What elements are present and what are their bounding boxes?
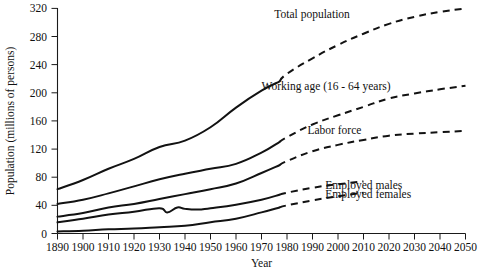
x-tick-label-1950: 1950	[199, 241, 222, 253]
x-tick-label-1890: 1890	[46, 241, 69, 253]
x-tick-label-1940: 1940	[174, 241, 197, 253]
series-line-historical	[58, 142, 280, 204]
x-ticks-group: 1890 1900 1910 1920 1930 1940 1950 1960 …	[46, 234, 477, 254]
y-tick-label-0: 0	[41, 228, 47, 240]
annotation-layer: Total populationWorking age (16 - 64 yea…	[262, 8, 412, 201]
x-tick-label-1930: 1930	[148, 241, 171, 253]
x-tick-label-2050: 2050	[454, 241, 477, 253]
y-tick-label-280: 280	[30, 31, 48, 43]
y-tick-label-320: 320	[30, 2, 48, 14]
x-tick-label-2000: 2000	[327, 241, 350, 253]
y-tick-label-40: 40	[36, 199, 48, 211]
y-tick-label-80: 80	[36, 171, 48, 183]
y-tick-label-240: 240	[30, 59, 48, 71]
chart-canvas: 0 40 80 120 160 200 240 280 320	[0, 0, 502, 270]
series-annotation-label: Working age (16 - 64 years)	[262, 80, 391, 93]
y-tick-label-200: 200	[30, 87, 48, 99]
x-tick-label-1920: 1920	[123, 241, 146, 253]
x-axis-title: Year	[251, 257, 272, 269]
x-tick-label-2020: 2020	[378, 241, 401, 253]
series-annotation-label: Total population	[274, 8, 350, 21]
series-annotation-label: Employed females	[325, 188, 411, 201]
x-tick-label-1990: 1990	[301, 241, 324, 253]
population-projection-chart: 0 40 80 120 160 200 240 280 320	[0, 0, 502, 270]
x-tick-label-2010: 2010	[352, 241, 375, 253]
y-ticks-group: 0 40 80 120 160 200 240 280 320	[30, 2, 58, 239]
x-tick-label-1910: 1910	[97, 241, 120, 253]
series-annotation-label: Labor force	[307, 124, 361, 136]
series-line-historical	[58, 165, 280, 216]
y-axis-title: Population (millions of persons)	[4, 47, 17, 196]
y-tick-label-160: 160	[30, 115, 48, 127]
series-line-historical	[58, 82, 280, 190]
x-tick-label-2040: 2040	[429, 241, 452, 253]
x-tick-label-1970: 1970	[250, 241, 273, 253]
x-tick-label-1960: 1960	[225, 241, 248, 253]
x-tick-label-1980: 1980	[276, 241, 299, 253]
x-tick-label-1900: 1900	[72, 241, 95, 253]
y-tick-label-120: 120	[30, 143, 48, 155]
x-tick-label-2030: 2030	[403, 241, 426, 253]
